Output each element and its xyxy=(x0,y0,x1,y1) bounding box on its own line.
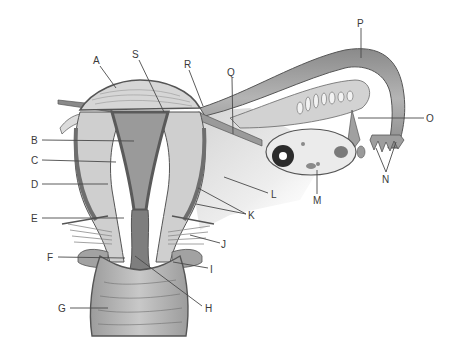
label-O: O xyxy=(426,113,434,124)
label-E: E xyxy=(31,213,38,224)
ovary xyxy=(266,129,356,175)
reproductive-anatomy-diagram: A S R Q P O N M L K J I xyxy=(0,0,455,356)
label-I: I xyxy=(210,264,213,275)
label-F: F xyxy=(47,252,53,263)
label-P: P xyxy=(357,18,364,29)
label-H: H xyxy=(205,303,212,314)
label-G: G xyxy=(58,303,66,314)
label-S: S xyxy=(132,49,139,60)
label-C: C xyxy=(31,155,38,166)
label-J: J xyxy=(221,239,226,250)
label-D: D xyxy=(31,179,38,190)
fimbriae xyxy=(370,135,404,152)
label-Q: Q xyxy=(227,67,235,78)
cervical-canal xyxy=(130,210,150,270)
label-R: R xyxy=(184,59,191,70)
label-N: N xyxy=(382,174,389,185)
label-A: A xyxy=(93,55,100,66)
uterine-cavity xyxy=(112,112,168,210)
label-K: K xyxy=(248,210,255,221)
label-M: M xyxy=(313,195,321,206)
label-L: L xyxy=(271,189,277,200)
label-B: B xyxy=(31,135,38,146)
